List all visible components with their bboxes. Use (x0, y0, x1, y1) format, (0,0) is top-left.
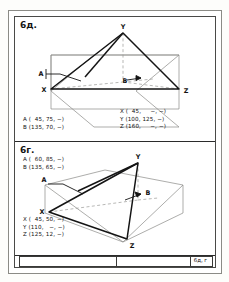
coord-line-b-bottom: B (135, 65, −) (23, 164, 64, 170)
coord-line-a-top: A ( 45, 75, −) (23, 116, 64, 122)
pyramid-edges-top (51, 33, 179, 89)
coord-line-b-top: B (135, 70, −) (23, 124, 64, 130)
coords-bottom-upper: A ( 60, 85, −)B (135, 65, −) (23, 156, 64, 171)
panel-top: 6д. (15, 17, 215, 142)
vertex-label-y-bottom: Y (135, 153, 141, 161)
title-block: 6д, г (15, 255, 215, 267)
panel-bottom: 6г. (15, 142, 215, 256)
title-block-right-label: 6д, г (191, 257, 210, 264)
coord-line-x-top: X ( 45, −, −) (120, 108, 166, 114)
vertex-label-x-bottom: X (40, 208, 45, 216)
coord-line-y-top: Y (100, 125, −) (120, 116, 164, 122)
plane-rhombus-bottom (45, 170, 183, 242)
marker-label-a-bottom: A (42, 176, 47, 184)
vertex-label-z-bottom: Z (130, 242, 135, 250)
drawing-sheet-frame: 6д. (14, 16, 216, 268)
marker-label-b-top: B (123, 77, 128, 85)
title-block-cell-left (19, 256, 117, 267)
coord-line-a-bottom: A ( 60, 85, −) (23, 156, 64, 162)
coord-line-z-bottom: Z (125, 12, −) (23, 231, 64, 237)
drawing-page: 6д. (0, 0, 229, 282)
marker-label-b-bottom: B (146, 189, 151, 197)
coords-top-right: X ( 45, −, −)Y (100, 125, −)Z (160, −, −… (120, 108, 166, 131)
coords-top-left: A ( 45, 75, −)B (135, 70, −) (23, 116, 64, 131)
vertex-label-x-top: X (42, 86, 47, 94)
coord-line-y-bottom: Y (110, −, −) (23, 224, 65, 230)
plane-rhombus-top (51, 55, 179, 109)
marker-b-leader-top (127, 76, 141, 81)
vertex-label-y-top: Y (120, 23, 126, 31)
coords-bottom-lower: X ( 45, 50, −)Y (110, −, −)Z (125, 12, −… (23, 216, 65, 239)
coord-line-x-bottom: X ( 45, 50, −) (23, 216, 64, 222)
title-block-cell-middle (116, 256, 191, 267)
marker-label-a-top: A (39, 70, 44, 78)
coord-line-z-top: Z (160, −, −) (120, 123, 166, 129)
marker-a-leader-bottom (48, 184, 83, 194)
vertex-label-z-top: Z (184, 87, 189, 95)
